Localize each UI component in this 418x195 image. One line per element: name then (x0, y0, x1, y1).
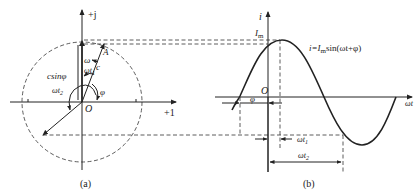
omega-t1-label-b: ωt1 (297, 135, 308, 145)
point-A-label: A (102, 47, 109, 57)
omega-label: ω (84, 55, 90, 65)
i-axis-label: i (259, 11, 262, 22)
omega-t1-label: ωt1 (84, 66, 95, 76)
imag-axis-label: +j (88, 9, 96, 20)
origin-label-b: O (261, 85, 268, 96)
real-axis-label: +1 (164, 107, 175, 118)
origin-label: O (85, 103, 92, 114)
sine-curve (232, 40, 396, 145)
phase-label: φ (100, 87, 105, 97)
omega-t2-label: ωt2 (52, 86, 63, 96)
phasor-t1-head (79, 40, 85, 46)
phasor-t2 (43, 102, 82, 135)
projection-label: csinφ (47, 71, 66, 81)
phase-label-b: φ (250, 94, 255, 104)
omega-t2-label-b: ωt2 (298, 151, 309, 161)
magnitude-label: c (96, 62, 100, 72)
phasor-sinusoid-diagram: +j +1 O A ω ωt1 c csinφ ωt2 φ (a) i (0, 0, 418, 195)
peak-label: Im (254, 28, 264, 40)
equation-label: i=Imsin(ωt+φ) (309, 43, 361, 55)
omega-t-axis-label: ωt (405, 99, 414, 108)
panel-b-caption: (b) (303, 178, 315, 190)
panel-a-caption: (a) (80, 178, 91, 190)
panel-a-phasor: +j +1 O A ω ωt1 c csinφ ωt2 φ (a) (10, 9, 343, 190)
panel-b-waveform: i Im O i=Imsin(ωt+φ) ωt φ ωt1 ωt2 (b) (215, 11, 414, 190)
